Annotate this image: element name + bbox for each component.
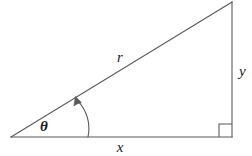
hypotenuse-label: r [117,49,123,65]
vertical-leg-label: y [237,63,246,79]
angle-arc [78,101,89,137]
angle-label: θ [40,118,48,134]
right-angle-marker-icon [219,124,232,137]
right-triangle-figure: r y x θ [0,0,252,156]
horizontal-leg-label: x [116,139,124,155]
hypotenuse-line [11,2,232,137]
figure-container: r y x θ [0,0,252,156]
